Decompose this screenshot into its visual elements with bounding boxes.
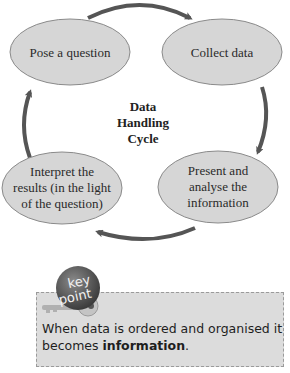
- node-label: of the question): [21, 196, 103, 211]
- node-label: information: [187, 195, 249, 210]
- arrow-pose-to-collect: [88, 5, 190, 18]
- node-label: Present and: [188, 163, 249, 178]
- node-collect-data: Collect data: [162, 19, 282, 85]
- key-point-text-bold: information: [103, 338, 186, 353]
- key-point-text-end: .: [185, 338, 189, 353]
- node-interpret-results: Interpret the results (in the light of t…: [2, 152, 122, 224]
- node-label: results (in the light: [13, 180, 111, 195]
- arrow-interpret-to-pose: [24, 92, 30, 158]
- title-line: Handling: [117, 115, 170, 130]
- arrow-collect-to-present: [258, 87, 266, 152]
- title-line: Data: [130, 99, 157, 114]
- node-label: Collect data: [191, 45, 254, 60]
- key-point-text: When data is ordered and organised it be…: [42, 320, 287, 354]
- data-handling-cycle-diagram: Pose a question Collect data Present and…: [0, 0, 290, 290]
- title-line: Cycle: [127, 131, 158, 146]
- node-label: Pose a question: [30, 45, 111, 60]
- node-pose-question: Pose a question: [10, 19, 130, 85]
- node-present-analyse: Present and analyse the information: [158, 151, 278, 223]
- arrow-present-to-interpret: [98, 228, 195, 239]
- node-label: analyse the: [189, 179, 247, 194]
- node-label: Interpret the: [30, 164, 94, 179]
- key-point-badge-icon: key point: [30, 264, 110, 324]
- diagram-title: Data Handling Cycle: [117, 99, 170, 146]
